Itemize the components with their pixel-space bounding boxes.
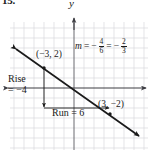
slope-fraction-1-numerator: 4	[99, 38, 105, 46]
slope-equation: m = − 4 6 = − 2 3	[75, 38, 127, 55]
slope-variable: m	[75, 42, 82, 52]
y-axis-label: y	[69, 0, 74, 9]
run-label: Run = 6	[52, 108, 84, 118]
slope-sign-1: −	[91, 42, 96, 52]
slope-fraction-1: 4 6	[99, 38, 105, 55]
rise-label-line2: = −4	[8, 85, 27, 95]
data-point-a	[42, 66, 45, 69]
point-label-b: (3, −2)	[98, 100, 124, 110]
problem-number: 15.	[2, 0, 15, 6]
slope-fraction-2-denominator: 3	[121, 46, 127, 55]
data-point-b	[108, 112, 111, 115]
rise-label-line1: Rise	[8, 74, 27, 84]
slope-fraction-2: 2 3	[121, 38, 127, 55]
coordinate-plane-figure: 15. y (−3, 2) (3, −2) Rise = −4 Run = 6 …	[0, 0, 150, 153]
point-label-a: (−3, 2)	[36, 50, 62, 60]
slope-equals-1: =	[84, 42, 89, 52]
rise-label: Rise = −4	[8, 74, 27, 95]
slope-sign-2: −	[114, 42, 119, 52]
slope-fraction-1-denominator: 6	[99, 46, 105, 55]
slope-fraction-2-numerator: 2	[121, 38, 127, 46]
slope-equals-2: =	[106, 42, 111, 52]
